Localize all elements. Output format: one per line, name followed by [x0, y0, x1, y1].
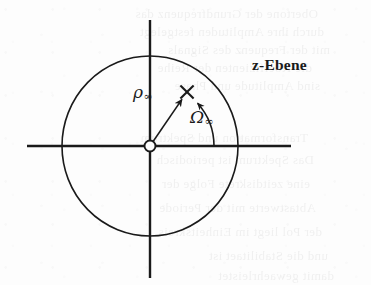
rho-symbol: ρ	[133, 82, 143, 102]
z-plane-label: z-Ebene	[252, 56, 307, 74]
omega-symbol: Ω	[190, 107, 204, 127]
figure-container: Obertone der Grundfrequenz dasdurch ihre…	[0, 0, 371, 285]
angle-omega-label: Ω∞	[190, 107, 214, 128]
z-plane-diagram	[0, 0, 371, 285]
pole-cross-marker	[180, 85, 193, 98]
radius-magnitude-label: ρ∞	[133, 82, 153, 103]
origin-marker	[145, 141, 156, 152]
rho-subscript: ∞	[144, 90, 153, 103]
omega-subscript: ∞	[205, 115, 214, 128]
radius-vector-line	[150, 99, 182, 146]
